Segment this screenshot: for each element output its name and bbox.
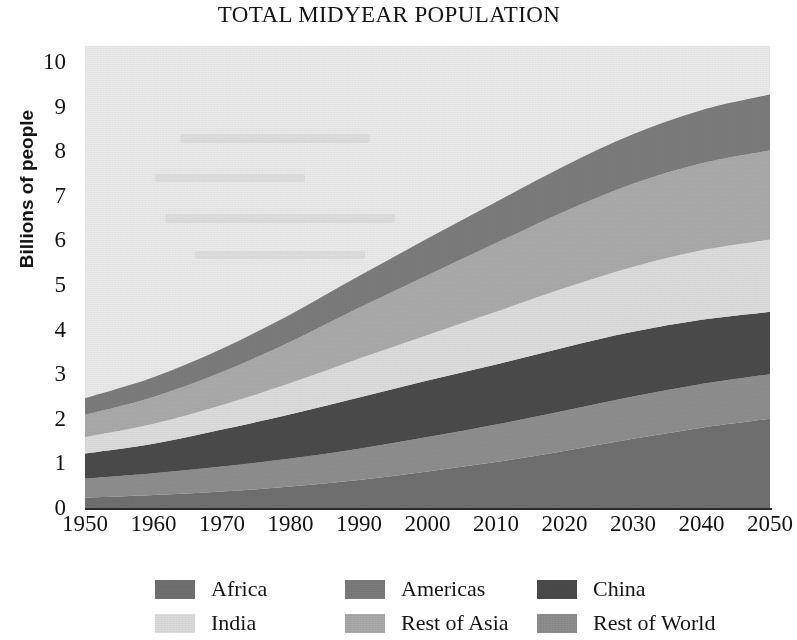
legend-swatch-americas [345,580,385,599]
legend-item-africa[interactable]: Africa [155,578,267,600]
x-axis-line [85,508,772,510]
legend-swatch-rest-of-world [537,614,577,633]
x-tick-2050: 2050 [727,512,797,535]
legend-label: India [211,610,256,636]
legend-item-rest-of-world[interactable]: Rest of World [537,612,715,634]
y-tick-3: 3 [26,362,66,385]
y-tick-5: 5 [26,273,66,296]
y-tick-1: 1 [26,451,66,474]
y-tick-10: 10 [26,50,66,73]
legend-item-americas[interactable]: Americas [345,578,485,600]
y-tick-6: 6 [26,228,66,251]
y-tick-4: 4 [26,318,66,341]
legend-label: Africa [211,576,267,602]
legend-swatch-china [537,580,577,599]
legend-swatch-rest-of-asia [345,614,385,633]
chart-title: TOTAL MIDYEAR POPULATION [0,2,778,28]
legend-item-india[interactable]: India [155,612,256,634]
legend-item-china[interactable]: China [537,578,646,600]
y-tick-2: 2 [26,407,66,430]
legend-label: Rest of Asia [401,610,509,636]
legend-swatch-india [155,614,195,633]
legend-item-rest-of-asia[interactable]: Rest of Asia [345,612,509,634]
legend-label: China [593,576,646,602]
y-tick-7: 7 [26,184,66,207]
plot-area [85,46,770,508]
legend-label: Rest of World [593,610,715,636]
legend-swatch-africa [155,580,195,599]
chart-legend: AfricaAmericasChinaIndiaRest of AsiaRest… [155,578,755,634]
y-tick-9: 9 [26,95,66,118]
legend-label: Americas [401,576,485,602]
stacked-area-plot [85,46,770,508]
y-tick-8: 8 [26,139,66,162]
